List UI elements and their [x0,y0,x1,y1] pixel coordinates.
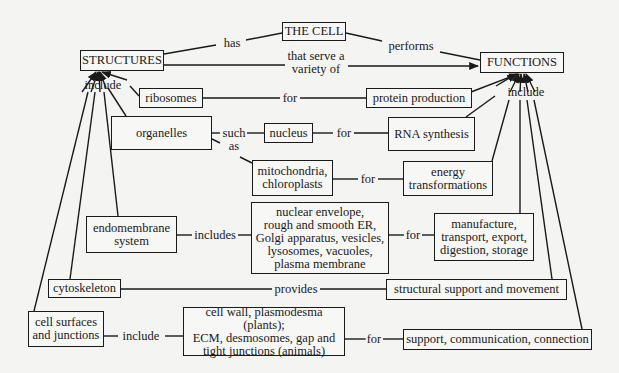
link-include-structures: include [84,79,123,92]
node-cytoskeleton: cytoskeleton [48,279,121,298]
node-structures: STRUCTURES [80,50,164,71]
node-nucleus: nucleus [264,123,313,143]
link-has: has [223,37,242,50]
link-for-mitochondria: for [360,173,377,186]
node-structural-support: structural support and movement [386,279,567,300]
node-manufacture-transport: manufacture, transport, export, digestio… [434,213,534,261]
link-includes-endomembrane: includes [193,229,237,242]
link-for-endomembrane: for [405,229,422,242]
link-include-surfaces: include [122,330,161,343]
node-ribosomes: ribosomes [139,88,203,108]
node-protein-production: protein production [366,88,472,108]
node-energy-transformations: energy transformations [403,161,493,196]
link-serve-variety: that serve a variety of [287,50,346,76]
node-the-cell: THE CELL [282,22,346,41]
node-cell-surfaces: cell surfaces and junctions [28,311,104,347]
node-endomembrane-system: endomembrane system [86,216,177,253]
concept-map: THE CELL STRUCTURES FUNCTIONS ribosomes … [0,0,619,373]
node-organelles: organelles [111,116,212,150]
node-cell-surface-components: cell wall, plasmodesma (plants); ECM, de… [183,307,345,356]
node-rna-synthesis: RNA synthesis [388,117,475,151]
link-performs: performs [387,40,434,53]
link-provides: provides [273,283,318,296]
link-for-ribosomes: for [282,92,299,105]
node-support-communication: support, communication, connection [403,329,592,350]
node-functions: FUNCTIONS [480,52,564,73]
link-for-surfaces: for [366,333,383,346]
link-include-functions: include [507,86,546,99]
link-for-nucleus: for [336,127,353,140]
node-endomembrane-components: nuclear envelope, rough and smooth ER, G… [251,202,389,274]
link-such-as: such as [222,127,247,153]
node-mitochondria-chloroplasts: mitochondria, chloroplasts [252,160,333,196]
